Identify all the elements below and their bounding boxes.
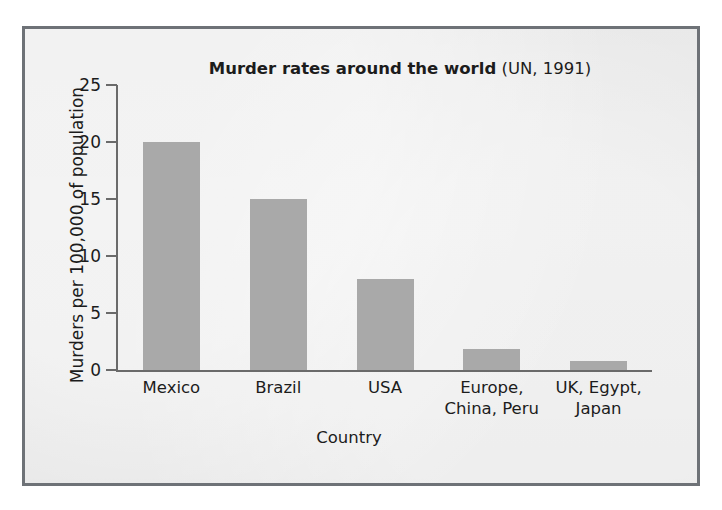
y-axis-tick <box>106 312 117 314</box>
x-axis-title: Country <box>259 428 439 447</box>
bar-usa <box>357 279 414 370</box>
x-axis-label: USA <box>332 377 439 398</box>
y-axis-tick <box>106 84 117 86</box>
y-axis-tick <box>106 255 117 257</box>
chart-title-bold: Murder rates around the world <box>209 59 497 78</box>
y-axis-title: Murders per 100,000 of population <box>67 85 87 385</box>
figure-panel: Murder rates around the world (UN, 1991)… <box>22 26 700 486</box>
x-axis-label: Mexico <box>118 377 225 398</box>
y-axis-tick-label: 25 <box>55 75 101 95</box>
plot-area <box>118 85 652 370</box>
y-axis-tick-label: 10 <box>55 246 101 266</box>
x-axis-label: Brazil <box>225 377 332 398</box>
bar-uk-egypt-japan <box>570 361 627 370</box>
chart-title: Murder rates around the world (UN, 1991) <box>165 59 635 78</box>
y-axis-tick <box>106 141 117 143</box>
bar-mexico <box>143 142 200 370</box>
chart-title-source: (UN, 1991) <box>501 59 591 78</box>
x-axis-line <box>116 370 652 372</box>
y-axis-tick <box>106 369 117 371</box>
y-axis-tick-label: 0 <box>55 360 101 380</box>
bar-chart: Murder rates around the world (UN, 1991)… <box>25 29 697 483</box>
scanned-figure-page: Murder rates around the world (UN, 1991)… <box>0 0 722 510</box>
y-axis-tick-label: 15 <box>55 189 101 209</box>
y-axis-tick-label: 5 <box>55 303 101 323</box>
x-axis-label: UK, Egypt, Japan <box>545 377 652 419</box>
y-axis-tick-label: 20 <box>55 132 101 152</box>
bar-europe-china-peru <box>463 349 520 370</box>
x-axis-label: Europe, China, Peru <box>438 377 545 419</box>
y-axis-tick <box>106 198 117 200</box>
bar-brazil <box>250 199 307 370</box>
